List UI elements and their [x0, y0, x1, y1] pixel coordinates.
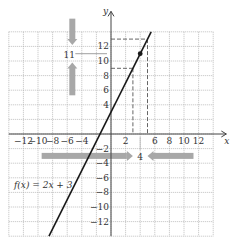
- x-tick-label: −8: [46, 136, 60, 146]
- arrow-down-head: [67, 39, 77, 45]
- y-tick-label: 8: [103, 71, 109, 81]
- y-tick-label: 10: [98, 56, 110, 66]
- arrow-right-shaft: [42, 153, 127, 159]
- y-tick-label: −4: [96, 158, 110, 168]
- y-tick-label: −8: [96, 187, 110, 197]
- x-tick-label: −6: [61, 136, 75, 146]
- y-target-label: 11: [64, 50, 75, 60]
- x-axis-label: x: [224, 136, 229, 146]
- y-tick-label: 4: [103, 100, 109, 110]
- y-tick-label: −10: [90, 202, 109, 212]
- y-axis-label: y: [102, 6, 109, 16]
- y-tick-label: −12: [90, 217, 109, 227]
- arrow-down-shaft: [69, 19, 75, 40]
- y-tick-label: 6: [103, 85, 109, 95]
- x-target-label: 4: [137, 152, 143, 162]
- y-tick-label: −2: [96, 144, 109, 154]
- y-tick-label: −6: [96, 173, 110, 183]
- y-tick-label: 12: [98, 41, 109, 51]
- arrow-right-head: [127, 151, 133, 161]
- arrow-up-shaft: [69, 67, 75, 95]
- arrow-left-shaft: [153, 153, 194, 159]
- x-tick-label: 6: [152, 136, 158, 146]
- x-tick-label: 8: [167, 136, 173, 146]
- x-tick-label: 2: [123, 136, 129, 146]
- x-tick-label: −4: [75, 136, 89, 146]
- function-graph: xy−12−10−8−6−426810121210864−2−4−6−8−10−…: [0, 0, 236, 249]
- x-tick-label: 12: [193, 136, 204, 146]
- x-tick-label: 10: [178, 136, 190, 146]
- highlighted-point: [138, 51, 143, 56]
- x-tick-label: −10: [29, 136, 48, 146]
- function-label: f(x) = 2x + 3: [13, 180, 73, 190]
